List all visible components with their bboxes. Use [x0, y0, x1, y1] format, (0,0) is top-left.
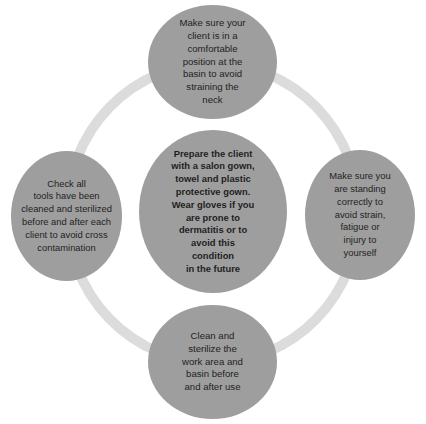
node-top-client-position: Make sure your client is in a comfortabl… — [148, 5, 277, 119]
node-center-text: Prepare the client with a salon gown, to… — [171, 148, 254, 276]
node-left-check-tools: Check all tools have been cleaned and st… — [11, 151, 122, 281]
node-center-prepare-client: Prepare the client with a salon gown, to… — [139, 130, 287, 293]
node-bottom-text: Clean and sterilize the work area and ba… — [182, 330, 243, 394]
node-left-text: Check all tools have been cleaned and st… — [21, 178, 112, 255]
node-top-text: Make sure your client is in a comfortabl… — [179, 17, 245, 107]
node-bottom-clean-area: Clean and sterilize the work area and ba… — [148, 305, 277, 419]
node-right-text: Make sure you are standing correctly to … — [329, 170, 391, 260]
node-right-standing-posture: Make sure you are standing correctly to … — [305, 150, 415, 280]
